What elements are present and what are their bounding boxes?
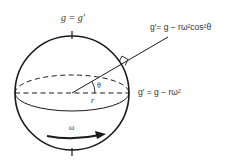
omega-label: ω <box>69 124 74 132</box>
rotation-arrowhead-icon <box>95 131 106 139</box>
radius-label: r <box>91 97 94 105</box>
pole-label: g = g′ <box>61 13 85 23</box>
equator-formula-label: g′ = g − rω² <box>138 88 181 97</box>
equator-back-dashed <box>15 75 129 93</box>
rotation-arrow <box>47 135 100 138</box>
theta-label: θ <box>97 82 101 90</box>
equator-front <box>15 93 129 111</box>
latitude-radius-line <box>72 37 168 93</box>
theta-arc <box>92 82 95 94</box>
latitude-formula-label: g′= g − rω²cos²θ <box>150 23 211 32</box>
